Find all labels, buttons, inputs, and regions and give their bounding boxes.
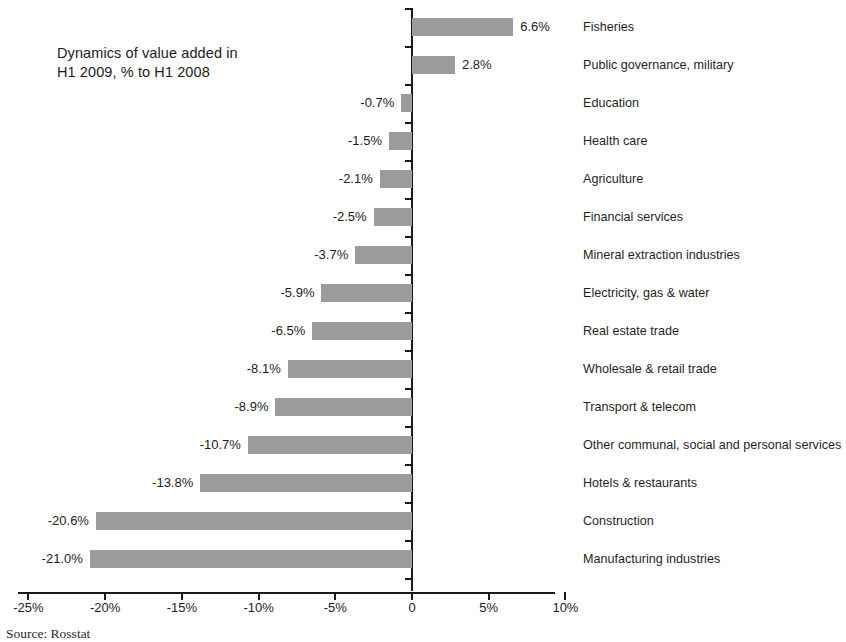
bar-value-label: -0.7%: [360, 94, 394, 112]
x-axis-tick-label: 5%: [479, 600, 498, 615]
bar-value-label: 2.8%: [462, 56, 492, 74]
bar-row: -20.6%Construction: [0, 502, 846, 540]
bar-value-label: -8.9%: [234, 398, 268, 416]
bar-row: -1.5%Health care: [0, 122, 846, 160]
bar-row: -3.7%Mineral extraction industries: [0, 236, 846, 274]
bar: [248, 436, 412, 454]
category-axis-tick: [405, 236, 412, 238]
category-axis-tick: [405, 502, 412, 504]
category-label: Public governance, military: [583, 55, 734, 75]
bar: [200, 474, 412, 492]
category-axis-tick: [405, 578, 412, 580]
bar-value-label: -6.5%: [271, 322, 305, 340]
bar-value-label: -2.5%: [333, 208, 367, 226]
category-label: Wholesale & retail trade: [583, 359, 717, 379]
category-label: Agriculture: [583, 169, 643, 189]
category-label: Education: [583, 93, 639, 113]
category-axis-tick: [405, 160, 412, 162]
chart-container: Dynamics of value added in H1 2009, % to…: [0, 0, 846, 642]
category-axis-tick: [405, 84, 412, 86]
category-label: Financial services: [583, 207, 683, 227]
bar: [389, 132, 412, 150]
bar: [312, 322, 412, 340]
x-axis-tick: [564, 592, 566, 600]
bar-value-label: -2.1%: [339, 170, 373, 188]
bar-row: -13.8%Hotels & restaurants: [0, 464, 846, 502]
category-label: Health care: [583, 131, 647, 151]
x-axis-tick: [104, 592, 106, 600]
category-axis-tick: [405, 8, 412, 10]
category-axis-tick: [405, 540, 412, 542]
bar-row: -21.0%Manufacturing industries: [0, 540, 846, 578]
bar: [355, 246, 412, 264]
bar-value-label: -21.0%: [42, 550, 83, 568]
x-axis-line: [18, 592, 555, 594]
bar-row: -8.9%Transport & telecom: [0, 388, 846, 426]
category-axis-tick: [405, 350, 412, 352]
x-axis-tick: [27, 592, 29, 600]
category-axis-tick: [405, 198, 412, 200]
bar-row: -10.7%Other communal, social and persona…: [0, 426, 846, 464]
bar-value-label: -1.5%: [348, 132, 382, 150]
category-axis-tick: [405, 46, 412, 48]
bar-value-label: -13.8%: [152, 474, 193, 492]
category-label: Fisheries: [583, 17, 634, 37]
bar-row: -0.7%Education: [0, 84, 846, 122]
category-label: Transport & telecom: [583, 397, 696, 417]
category-axis-tick: [405, 274, 412, 276]
bar-row: -8.1%Wholesale & retail trade: [0, 350, 846, 388]
x-axis-tick: [411, 592, 413, 600]
bar-row: -6.5%Real estate trade: [0, 312, 846, 350]
bar: [412, 18, 513, 36]
bar-row: -2.1%Agriculture: [0, 160, 846, 198]
x-axis-tick: [334, 592, 336, 600]
category-label: Construction: [583, 511, 654, 531]
bar: [412, 56, 455, 74]
bar: [401, 94, 412, 112]
category-axis-tick: [405, 464, 412, 466]
category-label: Hotels & restaurants: [583, 473, 697, 493]
category-label: Electricity, gas & water: [583, 283, 709, 303]
bar-value-label: -8.1%: [247, 360, 281, 378]
bar: [380, 170, 412, 188]
source-note: Source: Rosstat: [6, 626, 90, 642]
bar: [275, 398, 412, 416]
x-axis-tick: [181, 592, 183, 600]
bar-row: -5.9%Electricity, gas & water: [0, 274, 846, 312]
bar-row: 2.8%Public governance, military: [0, 46, 846, 84]
category-label: Real estate trade: [583, 321, 679, 341]
bar: [90, 550, 412, 568]
plot-area: 6.6%Fisheries2.8%Public governance, mili…: [0, 0, 846, 592]
x-axis-tick-label: -25%: [13, 600, 43, 615]
category-label: Mineral extraction industries: [583, 245, 740, 265]
category-label: Manufacturing industries: [583, 549, 720, 569]
x-axis-tick: [488, 592, 490, 600]
x-axis-tick-label: -10%: [243, 600, 273, 615]
x-axis-tick-label: -20%: [90, 600, 120, 615]
x-axis-tick-label: 10%: [552, 600, 578, 615]
bar: [288, 360, 412, 378]
x-axis-tick-label: -15%: [167, 600, 197, 615]
x-axis-tick-label: 0: [408, 600, 415, 615]
category-axis-tick: [405, 312, 412, 314]
bar-value-label: -5.9%: [281, 284, 315, 302]
category-axis-tick: [405, 122, 412, 124]
bar-row: 6.6%Fisheries: [0, 8, 846, 46]
category-label: Other communal, social and personal serv…: [583, 435, 841, 455]
bar: [321, 284, 412, 302]
x-axis-tick-label: -5%: [324, 600, 347, 615]
bar: [96, 512, 412, 530]
bar-value-label: -20.6%: [48, 512, 89, 530]
bar-row: -2.5%Financial services: [0, 198, 846, 236]
x-axis-tick: [258, 592, 260, 600]
bar: [374, 208, 412, 226]
bar-value-label: 6.6%: [520, 18, 550, 36]
category-axis-tick: [405, 426, 412, 428]
category-axis-tick: [405, 388, 412, 390]
bar-value-label: -3.7%: [314, 246, 348, 264]
bar-value-label: -10.7%: [200, 436, 241, 454]
